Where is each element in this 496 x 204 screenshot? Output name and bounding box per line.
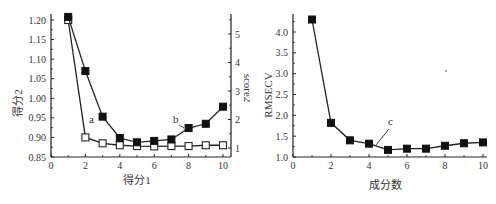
x-tick-label: 8 (186, 160, 191, 171)
series-c-marker (385, 146, 392, 153)
rmsecv-chart: 1.01.52.02.53.03.54.00246810成分数RMSECVc (250, 0, 496, 204)
y-tick-label: 2.5 (276, 89, 289, 100)
left-chart-panel: 0.850.900.951.001.051.101.151.2002468101… (0, 0, 250, 204)
series-a-marker (185, 143, 192, 150)
series-b-marker (99, 113, 106, 120)
x-tick-label: 4 (367, 160, 372, 171)
y-tick-label: 0.95 (29, 112, 47, 123)
y-tick-label: 1.05 (29, 73, 47, 84)
x-axis-title: 得分1 (123, 174, 151, 186)
y-tick-label: 4.0 (276, 27, 289, 38)
series-a-marker (82, 134, 89, 141)
series-b-marker (220, 103, 227, 110)
y2-axis-title: score2 (242, 74, 250, 103)
y2-tick-label: 3 (235, 86, 240, 97)
series-a-marker (99, 140, 106, 147)
y-tick-label: 0.85 (29, 152, 47, 163)
y-tick-label: 1.00 (29, 93, 47, 104)
annotation-c: c (388, 115, 393, 127)
y2-tick-label: 2 (235, 114, 240, 125)
x-tick-label: 8 (443, 160, 448, 171)
series-a-marker (220, 142, 227, 149)
y-tick-label: 3.5 (276, 47, 289, 58)
x-tick-label: 2 (329, 160, 334, 171)
series-a-marker (202, 142, 209, 149)
right-chart-panel: 1.01.52.02.53.03.54.00246810成分数RMSECVc (250, 0, 496, 204)
annotation-b: b (173, 113, 179, 125)
y2-tick-label: 4 (235, 57, 240, 68)
series-b-marker (65, 13, 72, 20)
y-tick-label: 3.0 (276, 68, 289, 79)
x-tick-label: 0 (49, 160, 54, 171)
series-c-marker (309, 16, 316, 23)
series-c-marker (404, 145, 411, 152)
series-b-marker (168, 136, 175, 143)
series-c-marker (347, 137, 354, 144)
y-tick-label: 1.10 (29, 54, 47, 65)
y-tick-label: 1.5 (276, 131, 289, 142)
x-tick-label: 10 (478, 160, 488, 171)
y-tick-label: 0.90 (29, 132, 47, 143)
y-axis-title: RMSECV (262, 72, 274, 117)
x-axis-title: 成分数 (369, 179, 402, 191)
series-c-line (312, 20, 483, 150)
y2-tick-label: 1 (235, 143, 240, 154)
series-b-marker (151, 137, 158, 144)
series-b-marker (202, 120, 209, 127)
y-tick-label: 2.0 (276, 110, 289, 121)
score-chart: 0.850.900.951.001.051.101.151.2002468101… (0, 0, 250, 204)
series-b-marker (116, 135, 123, 142)
series-b-marker (185, 125, 192, 132)
x-tick-label: 10 (218, 160, 228, 171)
series-b-marker (134, 139, 141, 146)
series-c-marker (328, 119, 335, 126)
series-c-marker (442, 142, 449, 149)
series-c-marker (480, 139, 487, 146)
y-tick-label: 1.15 (29, 34, 47, 45)
annotation-a: a (89, 113, 94, 125)
series-b-marker (82, 68, 89, 75)
x-tick-label: 2 (83, 160, 88, 171)
x-tick-label: 4 (117, 160, 122, 171)
series-c-marker (423, 145, 430, 152)
series-a-marker (116, 142, 123, 149)
y-axis-title: 得分2 (12, 89, 24, 117)
y-tick-label: 1.0 (276, 152, 289, 163)
series-a-marker (168, 143, 175, 150)
y-tick-label: 1.20 (29, 15, 47, 26)
y2-tick-label: 5 (235, 29, 240, 40)
series-c-marker (366, 140, 373, 147)
x-tick-label: 6 (405, 160, 410, 171)
series-a-line (68, 20, 223, 146)
x-tick-label: 6 (152, 160, 157, 171)
series-c-marker (461, 140, 468, 147)
speck (445, 70, 447, 72)
x-tick-label: 0 (291, 160, 296, 171)
